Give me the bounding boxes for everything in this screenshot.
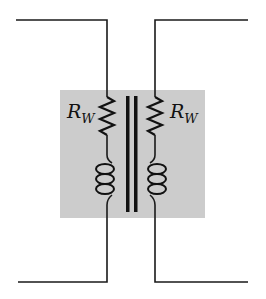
primary-top-wire: [16, 20, 107, 97]
core-bar-right: [134, 96, 138, 212]
transformer-diagram: RW RW: [0, 0, 266, 299]
core-bar-left: [126, 96, 130, 212]
secondary-top-wire: [155, 20, 248, 97]
